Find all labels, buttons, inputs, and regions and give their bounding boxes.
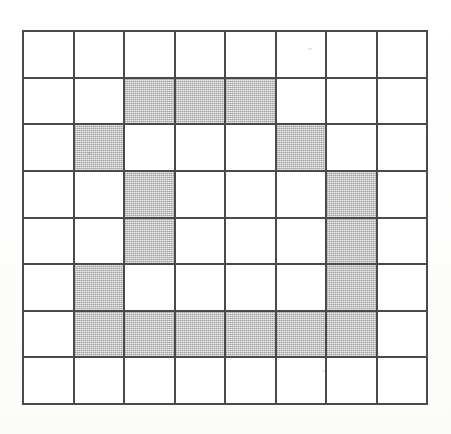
grid-cell-r6-c6 [277, 265, 328, 312]
grid-cell-r5-c4 [176, 219, 227, 266]
grid-cell-r5-c2 [75, 219, 126, 266]
grid-cell-r8-c1 [24, 358, 75, 405]
grid-cell-r1-c2 [75, 32, 126, 79]
grid-cell-r3-c6 [277, 125, 328, 172]
grid-cell-r7-c8 [378, 312, 429, 359]
grid-cell-r3-c5 [226, 125, 277, 172]
grid-cell-r4-c6 [277, 172, 328, 219]
grid-cell-r6-c1 [24, 265, 75, 312]
grid-cell-r8-c6 [277, 358, 328, 405]
grid-cell-r1-c6 [277, 32, 328, 79]
grid-cell-r5-c1 [24, 219, 75, 266]
grid-cell-r6-c4 [176, 265, 227, 312]
page-background [0, 0, 451, 434]
grid-cell-r3-c1 [24, 125, 75, 172]
grid-cell-r3-c2 [75, 125, 126, 172]
grid-cell-r1-c5 [226, 32, 277, 79]
grid-cell-r4-c2 [75, 172, 126, 219]
grid-cell-r2-c5 [226, 79, 277, 126]
grid-cell-r6-c5 [226, 265, 277, 312]
grid-cell-r3-c8 [378, 125, 429, 172]
grid-cell-r7-c1 [24, 312, 75, 359]
grid-cell-r4-c8 [378, 172, 429, 219]
grid-cell-r8-c7 [327, 358, 378, 405]
grid-cell-r5-c3 [125, 219, 176, 266]
grid-cell-r2-c7 [327, 79, 378, 126]
grid-cell-r2-c2 [75, 79, 126, 126]
grid-cell-r4-c4 [176, 172, 227, 219]
grid-cell-r3-c7 [327, 125, 378, 172]
grid-cell-r4-c3 [125, 172, 176, 219]
grid-cell-r5-c6 [277, 219, 328, 266]
grid-cell-r8-c5 [226, 358, 277, 405]
grid-cell-r6-c3 [125, 265, 176, 312]
grid-cell-r6-c8 [378, 265, 429, 312]
grid-cell-r3-c3 [125, 125, 176, 172]
grid-cell-r7-c3 [125, 312, 176, 359]
grid-cell-r4-c7 [327, 172, 378, 219]
cell-grid [22, 30, 428, 405]
grid-cell-r7-c4 [176, 312, 227, 359]
grid-cell-r2-c6 [277, 79, 328, 126]
grid-cell-r3-c4 [176, 125, 227, 172]
grid-cell-r4-c1 [24, 172, 75, 219]
grid-cell-r7-c2 [75, 312, 126, 359]
grid-cell-r6-c2 [75, 265, 126, 312]
grid-cell-r7-c6 [277, 312, 328, 359]
grid-cell-r7-c7 [327, 312, 378, 359]
grid-cell-r2-c3 [125, 79, 176, 126]
grid-cell-r2-c1 [24, 79, 75, 126]
grid-cell-r4-c5 [226, 172, 277, 219]
grid-cell-r1-c3 [125, 32, 176, 79]
grid-cell-r8-c8 [378, 358, 429, 405]
grid-cell-r1-c7 [327, 32, 378, 79]
grid-cell-r5-c7 [327, 219, 378, 266]
grid-cell-r1-c1 [24, 32, 75, 79]
grid-cell-r1-c8 [378, 32, 429, 79]
grid-cell-r8-c3 [125, 358, 176, 405]
grid-figure [22, 30, 428, 405]
grid-cell-r8-c2 [75, 358, 126, 405]
grid-cell-r6-c7 [327, 265, 378, 312]
grid-cell-r5-c8 [378, 219, 429, 266]
grid-cell-r2-c4 [176, 79, 227, 126]
grid-cell-r2-c8 [378, 79, 429, 126]
grid-cell-r7-c5 [226, 312, 277, 359]
grid-cell-r5-c5 [226, 219, 277, 266]
grid-cell-r1-c4 [176, 32, 227, 79]
grid-cell-r8-c4 [176, 358, 227, 405]
